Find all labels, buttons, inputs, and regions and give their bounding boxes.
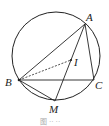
segment-am [55, 24, 85, 101]
circumcircle [12, 12, 100, 100]
segment-ab [19, 24, 85, 80]
label-a: A [85, 11, 93, 23]
label-b: B [5, 76, 12, 88]
label-c: C [95, 79, 103, 91]
segment-bi-dashed [19, 60, 71, 80]
figure-caption: 图 ·· ·· [40, 118, 60, 126]
point-b-dot [18, 79, 21, 82]
label-i: I [73, 56, 79, 68]
label-m: M [48, 103, 59, 115]
point-i-dot [70, 59, 72, 61]
segment-bm [19, 80, 55, 101]
geometry-figure: A B C I M 图 ·· ·· [0, 0, 109, 126]
